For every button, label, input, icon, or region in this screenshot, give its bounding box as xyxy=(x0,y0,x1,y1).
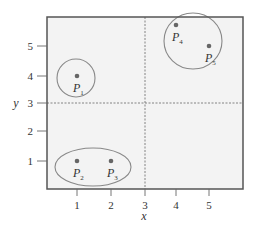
clustering-scatter-chart: P1P2P3P4P5 12345 12345 x y xyxy=(0,0,258,230)
point-p1 xyxy=(75,74,80,79)
y-tick-label-3: 3 xyxy=(28,97,34,109)
x-axis-label: x xyxy=(140,209,147,223)
x-axis: 12345 xyxy=(74,189,212,211)
y-tick-label-2: 2 xyxy=(28,125,34,137)
y-tick-label-4: 4 xyxy=(28,70,34,82)
x-tick-label-1: 1 xyxy=(74,199,80,211)
x-tick-label-4: 4 xyxy=(173,199,179,211)
point-p5 xyxy=(207,44,212,49)
x-tick-label-5: 5 xyxy=(206,199,212,211)
point-p2 xyxy=(75,159,80,164)
y-axis: 12345 xyxy=(28,40,48,167)
point-p4 xyxy=(174,23,179,28)
y-axis-label: y xyxy=(12,96,19,110)
x-tick-label-2: 2 xyxy=(108,199,114,211)
y-tick-label-5: 5 xyxy=(28,40,34,52)
y-tick-label-1: 1 xyxy=(28,155,34,167)
point-p3 xyxy=(109,159,114,164)
